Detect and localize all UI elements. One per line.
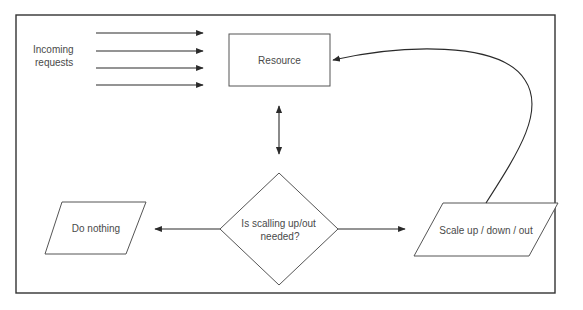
decision-label-line-1: Is scalling up/out: [241, 218, 316, 229]
flowchart-diagram: Incoming requests Resource Is scalling u…: [0, 0, 583, 310]
do-nothing-label: Do nothing: [72, 223, 120, 234]
incoming-label-line-1: Incoming: [33, 44, 74, 55]
decision-label-line-2: needed?: [261, 231, 300, 242]
scale-label: Scale up / down / out: [439, 225, 533, 236]
resource-label: Resource: [258, 55, 301, 66]
resource-node: Resource: [229, 34, 330, 86]
incoming-label-line-2: requests: [35, 57, 73, 68]
